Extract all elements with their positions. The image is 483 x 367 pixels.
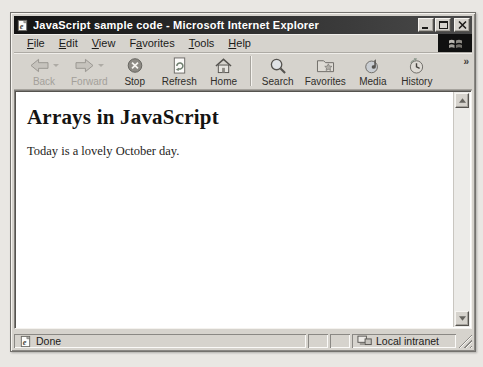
page-content-area: Arrays in JavaScript Today is a lovely O…	[14, 90, 472, 329]
resize-grip[interactable]	[458, 334, 472, 348]
scroll-up-button[interactable]	[455, 93, 469, 108]
window-title: JavaScript sample code - Microsoft Inter…	[33, 19, 414, 31]
toolbar-button-forward[interactable]: Forward	[66, 55, 113, 87]
toolbar-button-label: Forward	[71, 76, 108, 87]
titlebar[interactable]: e JavaScript sample code - Microsoft Int…	[14, 16, 472, 34]
dropdown-arrow-icon[interactable]	[98, 64, 104, 67]
menu-item-view[interactable]: View	[85, 35, 123, 51]
refresh-icon	[171, 57, 188, 74]
toolbar-button-history[interactable]: History	[395, 55, 439, 87]
toolbar-button-back[interactable]: Back	[22, 55, 66, 87]
status-panel-empty-2	[330, 334, 350, 348]
toolbar-button-label: Search	[262, 76, 294, 87]
status-panel-empty-1	[308, 334, 328, 348]
scroll-down-arrow-icon	[459, 316, 466, 321]
toolbar-button-label: Stop	[124, 76, 145, 87]
vertical-scrollbar[interactable]	[453, 92, 470, 327]
toolbar-button-label: History	[401, 76, 432, 87]
history-icon	[407, 57, 426, 74]
scroll-down-button[interactable]	[455, 311, 469, 326]
media-icon	[364, 57, 382, 74]
window-controls	[418, 18, 470, 32]
close-icon	[458, 21, 467, 29]
page-paragraph: Today is a lovely October day.	[27, 144, 442, 159]
minimize-button[interactable]	[418, 18, 434, 32]
stop-icon	[126, 57, 144, 74]
toolbar-button-stop[interactable]: Stop	[113, 55, 157, 87]
ie-page-icon: e	[19, 335, 32, 348]
html-document: Arrays in JavaScript Today is a lovely O…	[17, 93, 452, 326]
svg-text:e: e	[20, 22, 24, 31]
toolbar-button-label: Favorites	[305, 76, 346, 87]
intranet-icon	[357, 335, 372, 347]
toolbar-button-label: Home	[210, 76, 237, 87]
maximize-button[interactable]	[435, 18, 451, 32]
menu-item-edit[interactable]: Edit	[52, 35, 85, 51]
forward-arrow-icon	[74, 57, 95, 74]
back-arrow-icon	[29, 57, 50, 74]
toolbar-button-favorites[interactable]: Favorites	[300, 55, 351, 87]
svg-text:e: e	[23, 338, 27, 347]
statusbar: e Done Local intranet	[14, 331, 472, 348]
toolbar-button-home[interactable]: Home	[202, 55, 246, 87]
toolbar-button-label: Refresh	[162, 76, 197, 87]
toolbar: BackForwardStopRefreshHomeSearchFavorite…	[14, 53, 472, 90]
security-zone-panel: Local intranet	[352, 334, 456, 348]
status-panel: e Done	[14, 334, 306, 348]
favorites-icon	[316, 57, 335, 74]
toolbar-overflow-chevron[interactable]: »	[463, 56, 469, 67]
browser-window: e JavaScript sample code - Microsoft Int…	[10, 12, 476, 352]
close-button[interactable]	[454, 18, 470, 32]
search-icon	[269, 57, 287, 74]
toolbar-button-search[interactable]: Search	[256, 55, 300, 87]
zone-text: Local intranet	[376, 335, 439, 347]
toolbar-buttons: BackForwardStopRefreshHomeSearchFavorite…	[22, 55, 439, 87]
menubar: FileEditViewFavoritesToolsHelp	[14, 34, 472, 53]
toolbar-button-media[interactable]: Media	[351, 55, 395, 87]
maximize-icon	[439, 21, 448, 29]
windows-logo-icon	[448, 37, 463, 50]
ie-page-icon: e	[16, 19, 29, 32]
status-text: Done	[36, 335, 61, 347]
minimize-icon	[422, 22, 430, 29]
toolbar-button-label: Media	[359, 76, 386, 87]
menu-item-file[interactable]: File	[20, 35, 52, 51]
menu-item-favorites[interactable]: Favorites	[122, 35, 181, 51]
menu-item-tools[interactable]: Tools	[182, 35, 222, 51]
menu-items: FileEditViewFavoritesToolsHelp	[20, 35, 258, 51]
scroll-up-arrow-icon	[459, 98, 466, 103]
menu-item-help[interactable]: Help	[221, 35, 258, 51]
toolbar-separator	[250, 56, 252, 86]
toolbar-button-label: Back	[33, 76, 55, 87]
dropdown-arrow-icon[interactable]	[53, 64, 59, 67]
windows-logo-brand	[438, 34, 472, 52]
home-icon	[214, 57, 233, 74]
toolbar-button-refresh[interactable]: Refresh	[157, 55, 202, 87]
page-heading: Arrays in JavaScript	[27, 105, 442, 130]
